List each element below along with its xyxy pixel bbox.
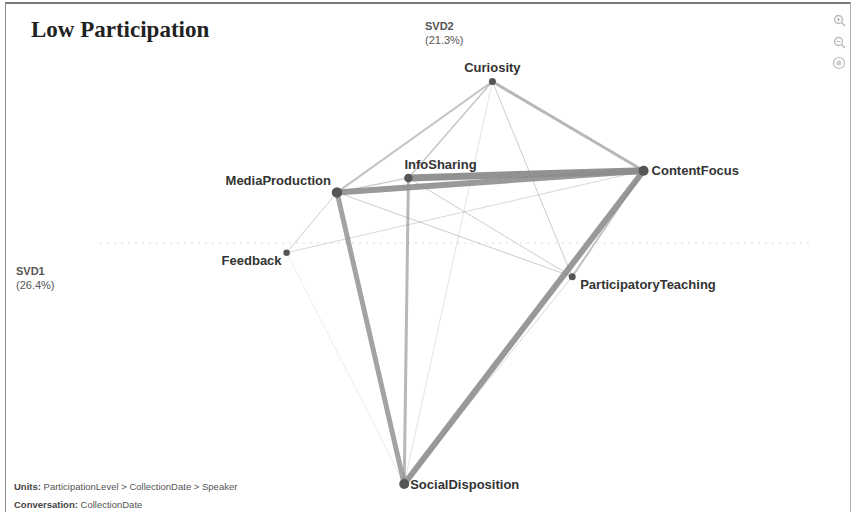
edge-ParticipatoryTeaching-SocialDisposition[interactable] xyxy=(404,277,572,484)
edge-Feedback-SocialDisposition[interactable] xyxy=(287,253,405,484)
edge-Curiosity-ContentFocus[interactable] xyxy=(492,82,643,171)
node-label-InfoSharing: InfoSharing xyxy=(404,157,476,172)
node-label-SocialDisposition: SocialDisposition xyxy=(410,477,519,492)
node-label-Feedback: Feedback xyxy=(222,253,283,268)
node-label-Curiosity: Curiosity xyxy=(464,60,521,75)
node-Curiosity[interactable] xyxy=(489,78,496,85)
node-label-MediaProduction: MediaProduction xyxy=(226,173,332,188)
node-Feedback[interactable] xyxy=(283,249,290,256)
labels-group: CuriosityContentFocusInfoSharingMediaPro… xyxy=(222,60,739,492)
node-InfoSharing[interactable] xyxy=(404,174,413,183)
node-label-ContentFocus: ContentFocus xyxy=(652,163,739,178)
edge-InfoSharing-SocialDisposition[interactable] xyxy=(404,178,408,484)
node-label-ParticipatoryTeaching: ParticipatoryTeaching xyxy=(580,277,716,292)
node-MediaProduction[interactable] xyxy=(332,187,343,198)
edge-MediaProduction-Feedback[interactable] xyxy=(287,192,337,252)
conversation-value: CollectionDate xyxy=(81,499,143,510)
edge-MediaProduction-ParticipatoryTeaching[interactable] xyxy=(337,192,572,276)
node-SocialDisposition[interactable] xyxy=(399,479,409,489)
units-label: Units: xyxy=(14,481,41,492)
units-line: Units: ParticipationLevel > CollectionDa… xyxy=(14,481,237,492)
units-value: ParticipationLevel > CollectionDate > Sp… xyxy=(44,481,238,492)
network-plot: CuriosityContentFocusInfoSharingMediaPro… xyxy=(0,0,854,515)
node-ContentFocus[interactable] xyxy=(639,166,649,176)
edge-ContentFocus-ParticipatoryTeaching[interactable] xyxy=(572,171,643,277)
node-ParticipatoryTeaching[interactable] xyxy=(569,273,576,280)
conversation-label: Conversation: xyxy=(14,499,78,510)
conversation-line: Conversation: CollectionDate xyxy=(14,499,142,510)
edge-MediaProduction-SocialDisposition[interactable] xyxy=(337,192,404,484)
